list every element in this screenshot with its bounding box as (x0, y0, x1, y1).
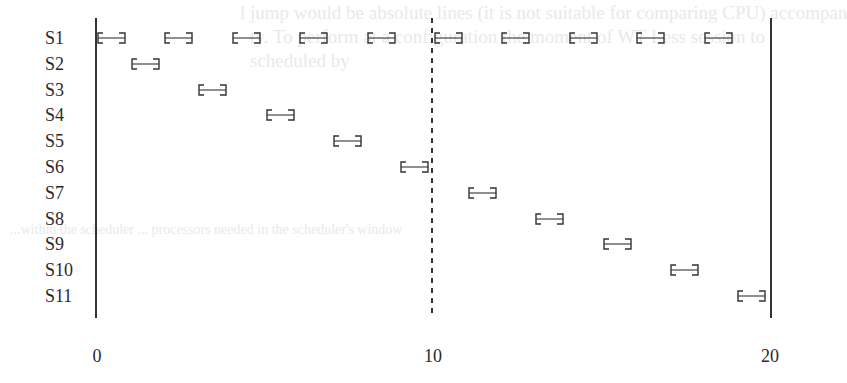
bracket-interval-icon (737, 290, 766, 302)
ghost-line: l jump would be absolute lines (it is no… (240, 2, 847, 24)
row-label: S10 (45, 261, 73, 279)
interval-bar (131, 58, 160, 69)
tick-label-0: 0 (93, 346, 102, 367)
bracket-interval-icon (299, 32, 328, 44)
interval-bar (535, 213, 564, 224)
interval-bar (299, 32, 328, 43)
bracket-interval-icon (468, 187, 497, 199)
row-label: S8 (45, 210, 64, 228)
bracket-interval-icon (569, 32, 598, 44)
row-label: S7 (45, 184, 64, 202)
interval-bar (97, 32, 126, 43)
row-label: S6 (45, 158, 64, 176)
bracket-interval-icon (636, 32, 665, 44)
interval-bar (198, 84, 227, 95)
bracket-interval-icon (704, 32, 733, 44)
bracket-interval-icon (198, 84, 227, 96)
bracket-interval-icon (333, 135, 362, 147)
axis-line-midpoint-dashed (431, 18, 433, 318)
ghost-line: ...within the scheduler ... processors n… (10, 222, 402, 238)
interval-bar (232, 32, 261, 43)
bracket-interval-icon (535, 213, 564, 225)
row-label: S5 (45, 132, 64, 150)
interval-bar (266, 109, 295, 120)
bracket-interval-icon (434, 32, 463, 44)
row-label: S1 (45, 29, 64, 47)
interval-bar (434, 32, 463, 43)
row-label: S9 (45, 235, 64, 253)
axis-line-start (95, 18, 97, 318)
bracket-interval-icon (501, 32, 530, 44)
tick-label-10: 10 (424, 346, 442, 367)
bracket-interval-icon (266, 109, 295, 121)
interval-bar (468, 187, 497, 198)
interval-bar (636, 32, 665, 43)
interval-bar (670, 264, 699, 275)
bracket-interval-icon (164, 32, 193, 44)
ghost-line: scheduled by (250, 50, 350, 72)
interval-bar (501, 32, 530, 43)
bracket-interval-icon (400, 161, 429, 173)
bracket-interval-icon (367, 32, 396, 44)
interval-bar (333, 135, 362, 146)
bracket-interval-icon (232, 32, 261, 44)
tick-label-20: 20 (761, 346, 779, 367)
interval-bar (603, 238, 632, 249)
interval-bar (164, 32, 193, 43)
row-label: S11 (45, 287, 72, 305)
axis-line-end (770, 18, 772, 318)
row-label: S4 (45, 106, 64, 124)
interval-bar (737, 290, 766, 301)
bracket-interval-icon (97, 32, 126, 44)
row-label: S3 (45, 81, 64, 99)
interval-bar (704, 32, 733, 43)
row-label: S2 (45, 55, 64, 73)
interval-bar (569, 32, 598, 43)
interval-bar (400, 161, 429, 172)
bracket-interval-icon (603, 238, 632, 250)
bracket-interval-icon (131, 58, 160, 70)
bracket-interval-icon (670, 264, 699, 276)
interval-bar (367, 32, 396, 43)
